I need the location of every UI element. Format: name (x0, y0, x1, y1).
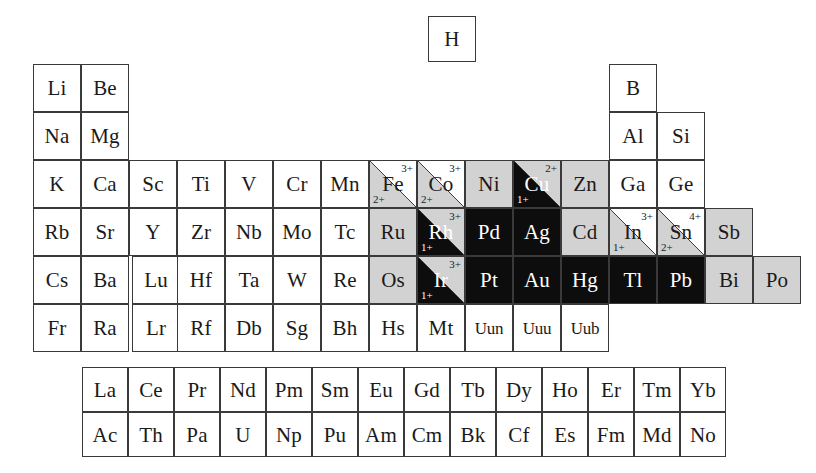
element-symbol: Ce (129, 379, 173, 400)
element-cell-nb: Nb (225, 208, 273, 256)
element-symbol: Fr (34, 318, 80, 339)
element-symbol: Si (658, 126, 704, 147)
element-cell-au: Au (513, 256, 561, 304)
element-symbol: Sc (130, 174, 176, 195)
element-cell-w: W (273, 256, 321, 304)
element-symbol: Co (418, 174, 464, 195)
charge-lower: 2+ (421, 194, 433, 205)
element-symbol: Cr (274, 174, 320, 195)
element-symbol: Hf (178, 270, 224, 291)
element-cell-uun: Uun (465, 304, 513, 352)
element-symbol: Li (34, 78, 80, 99)
element-cell-mo: Mo (273, 208, 321, 256)
element-symbol: Pd (466, 222, 512, 243)
element-symbol: Am (359, 424, 403, 445)
element-symbol: Sg (274, 318, 320, 339)
element-cell-lu: Lu (132, 256, 180, 304)
element-cell-si: Si (657, 112, 705, 160)
element-cell-la: La (82, 367, 128, 412)
element-cell-os: Os (369, 256, 417, 304)
element-symbol: Au (514, 270, 560, 291)
element-cell-in: In3+1+ (609, 208, 657, 256)
element-symbol: Sr (82, 222, 128, 243)
element-symbol: V (226, 174, 272, 195)
charge-upper: 4+ (689, 211, 701, 222)
element-symbol: Es (543, 424, 587, 445)
element-symbol: Rh (418, 222, 464, 243)
element-symbol: Rb (34, 222, 80, 243)
element-symbol: Cu (514, 174, 560, 195)
charge-lower: 1+ (517, 194, 529, 205)
element-cell-bh: Bh (321, 304, 369, 352)
element-cell-al: Al (609, 112, 657, 160)
element-cell-pt: Pt (465, 256, 513, 304)
element-cell-nd: Nd (220, 367, 266, 412)
element-cell-ni: Ni (465, 160, 513, 208)
element-symbol: Gd (405, 379, 449, 400)
element-symbol: Rf (178, 318, 224, 339)
element-symbol: Uun (466, 320, 512, 337)
element-symbol: Ta (226, 270, 272, 291)
element-cell-es: Es (542, 412, 588, 457)
element-cell-am: Am (358, 412, 404, 457)
element-symbol: Sb (706, 222, 752, 243)
element-cell-ag: Ag (513, 208, 561, 256)
element-symbol: La (83, 379, 127, 400)
element-cell-fe: Fe3+2+ (369, 160, 417, 208)
element-cell-co: Co3+2+ (417, 160, 465, 208)
element-cell-pb: Pb (657, 256, 705, 304)
element-cell-pm: Pm (266, 367, 312, 412)
element-cell-no: No (680, 412, 726, 457)
element-cell-er: Er (588, 367, 634, 412)
element-symbol: Uuu (514, 320, 560, 337)
element-cell-sc: Sc (129, 160, 177, 208)
element-symbol: Mo (274, 222, 320, 243)
element-symbol: Sn (658, 222, 704, 243)
element-cell-rh: Rh3+1+ (417, 208, 465, 256)
element-cell-cf: Cf (496, 412, 542, 457)
element-cell-cs: Cs (33, 256, 81, 304)
element-cell-hg: Hg (561, 256, 609, 304)
element-cell-uub: Uub (561, 304, 609, 352)
element-symbol: Tm (635, 379, 679, 400)
element-symbol: U (221, 424, 265, 445)
element-cell-na: Na (33, 112, 81, 160)
element-symbol: Os (370, 270, 416, 291)
element-cell-pu: Pu (312, 412, 358, 457)
element-cell-fm: Fm (588, 412, 634, 457)
element-cell-ra: Ra (81, 304, 129, 352)
element-symbol: Cf (497, 424, 541, 445)
element-cell-u: U (220, 412, 266, 457)
element-symbol: Th (129, 424, 173, 445)
element-symbol: Ir (418, 270, 464, 291)
element-symbol: Lr (133, 318, 179, 339)
element-cell-sm: Sm (312, 367, 358, 412)
element-cell-lr: Lr (132, 304, 180, 352)
element-symbol: Np (267, 424, 311, 445)
charge-lower: 1+ (421, 242, 433, 253)
element-cell-bk: Bk (450, 412, 496, 457)
element-symbol: Cm (405, 424, 449, 445)
element-cell-ho: Ho (542, 367, 588, 412)
element-symbol: In (610, 222, 656, 243)
element-symbol: Ra (82, 318, 128, 339)
element-symbol: Yb (681, 379, 725, 400)
element-cell-db: Db (225, 304, 273, 352)
element-symbol: Ba (82, 270, 128, 291)
element-cell-rb: Rb (33, 208, 81, 256)
element-symbol: Pa (175, 424, 219, 445)
element-symbol: Tl (610, 270, 656, 291)
element-cell-ti: Ti (177, 160, 225, 208)
element-symbol: H (429, 29, 475, 50)
charge-lower: 1+ (613, 242, 625, 253)
element-symbol: Mn (322, 174, 368, 195)
element-cell-sn: Sn4+2+ (657, 208, 705, 256)
element-symbol: K (34, 174, 80, 195)
element-symbol: Cd (562, 222, 608, 243)
charge-lower: 1+ (421, 290, 433, 301)
element-cell-mg: Mg (81, 112, 129, 160)
element-cell-ba: Ba (81, 256, 129, 304)
element-cell-sb: Sb (705, 208, 753, 256)
element-symbol: Al (610, 126, 656, 147)
element-symbol: Pt (466, 270, 512, 291)
